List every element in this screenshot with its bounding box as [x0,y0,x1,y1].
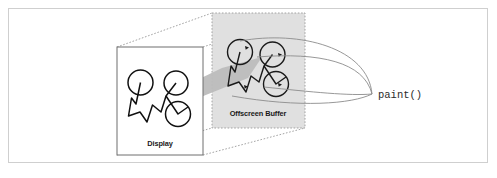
offscreen-buffer-panel-label: Offscreen Buffer [230,109,287,118]
paint-call-label: paint() [378,89,422,101]
figure-container: Display Offscreen Buffer paint() [0,0,497,178]
display-panel-label: Display [147,139,174,148]
offscreen-buffer-diagram: Display Offscreen Buffer paint() [0,0,497,178]
